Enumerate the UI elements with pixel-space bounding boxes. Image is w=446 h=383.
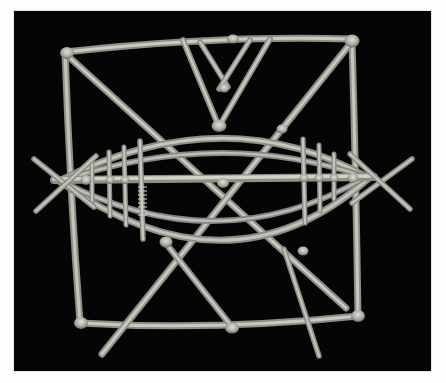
knot-center-crossing bbox=[217, 178, 229, 188]
photograph-plate bbox=[14, 11, 431, 371]
knot-left-point bbox=[81, 175, 92, 185]
stick-chart-diagram bbox=[14, 11, 431, 371]
knot-left-rib-2-spine bbox=[106, 176, 115, 184]
knot-right-rib-1-spine bbox=[330, 174, 339, 182]
knot-corner-bottom-right bbox=[351, 310, 365, 322]
knot-lens-top-apex bbox=[212, 120, 227, 132]
knot-right-rib-3-spine bbox=[300, 174, 309, 182]
knot-corner-top-left bbox=[60, 47, 74, 59]
knot-lens-bottom-apex bbox=[160, 237, 173, 248]
knot-inner-v-apex bbox=[219, 84, 230, 93]
knot-corner-top-right bbox=[345, 35, 360, 48]
knot-right-rib-2-spine bbox=[315, 174, 324, 182]
knot-left-rib-3-spine bbox=[121, 176, 130, 184]
knot-right-point bbox=[348, 173, 359, 183]
knot-arc-lower-right bbox=[298, 247, 309, 256]
knot-corner-bottom-left bbox=[74, 317, 88, 329]
knot-bottom-center bbox=[225, 323, 239, 334]
left-rib-2-highlight bbox=[109, 152, 110, 216]
horizontal-spine bbox=[54, 176, 374, 180]
knot-top-edge-junction bbox=[227, 35, 239, 44]
photo-frame: Marshall Islands navigational stick char… bbox=[0, 0, 446, 383]
knot-arc-right bbox=[277, 125, 288, 134]
